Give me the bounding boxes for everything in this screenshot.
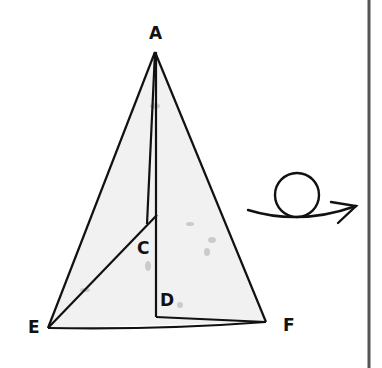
label-A: A — [149, 23, 163, 43]
label-F: F — [283, 315, 295, 335]
pyramid-diagram: A C D E F — [0, 0, 382, 368]
label-C: C — [137, 238, 149, 258]
label-D: D — [160, 290, 174, 310]
rotate-arrow-icon — [248, 173, 356, 223]
label-E: E — [28, 317, 40, 337]
